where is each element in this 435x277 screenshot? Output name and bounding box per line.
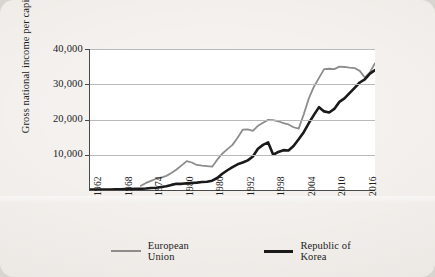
x-tick-label-1992: 1992 (246, 152, 256, 196)
x-tick-label-2016: 2016 (368, 152, 378, 196)
x-tick-label-2010: 2010 (337, 152, 347, 196)
scan-artifact-band (0, 196, 435, 203)
chart-legend: European Union Republic of Korea (89, 243, 379, 259)
legend-item-european-union: European Union (111, 240, 218, 262)
legend-swatch-european-union (111, 250, 141, 252)
y-tick-mark-10000 (85, 155, 90, 156)
x-tick-label-1986: 1986 (215, 152, 225, 196)
gridline-30000 (90, 84, 375, 85)
y-tick-mark-40000 (85, 49, 90, 50)
x-tick-label-1998: 1998 (276, 152, 286, 196)
legend-label-republic-of-korea: Republic of Korea (300, 240, 379, 262)
x-tick-label-1980: 1980 (185, 152, 195, 196)
legend-label-european-union: European Union (148, 240, 218, 262)
x-tick-label-2004: 2004 (307, 152, 317, 196)
y-tick-label-30000: 30,000 (37, 78, 83, 89)
y-tick-mark-20000 (85, 120, 90, 121)
gridline-40000 (90, 49, 375, 50)
legend-swatch-republic-of-korea (264, 250, 294, 253)
x-tick-label-1974: 1974 (154, 152, 164, 196)
chart-figure: Gross national income per capita (US$) 4… (0, 0, 435, 277)
y-tick-label-40000: 40,000 (37, 43, 83, 54)
x-tick-label-1962: 1962 (93, 152, 103, 196)
x-tick-label-1968: 1968 (124, 152, 134, 196)
y-axis-title: Gross national income per capita (US$) (20, 0, 36, 138)
y-tick-mark-30000 (85, 84, 90, 85)
legend-item-republic-of-korea: Republic of Korea (264, 240, 379, 262)
y-tick-label-20000: 20,000 (37, 113, 83, 124)
gridline-20000 (90, 120, 375, 121)
y-tick-label-10000: 10,000 (37, 148, 83, 159)
